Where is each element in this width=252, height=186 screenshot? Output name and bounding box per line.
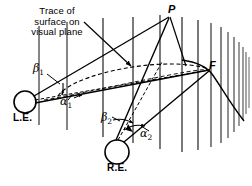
left-eye-label: L.E. <box>13 112 32 123</box>
right-eye-circle <box>105 140 129 164</box>
arrowhead-plane-hit <box>126 124 133 132</box>
angle-alpha2-subscript: 2 <box>147 133 152 142</box>
right-eye-rays <box>116 18 209 142</box>
leader-beta1 <box>47 74 60 84</box>
trace-note-text: Trace of surface on visual plane <box>18 6 96 38</box>
angle-beta2-label: β2 <box>101 112 112 127</box>
right-eye-label: R.E. <box>107 162 127 173</box>
arc-beta1 <box>62 83 63 95</box>
angle-beta1-subscript: 1 <box>39 68 44 77</box>
angle-alpha2-label: α2 <box>140 128 152 143</box>
figure-canvas: Trace of surface on visual plane L.E. R.… <box>0 0 252 186</box>
point-F-label: F <box>209 59 216 71</box>
segment-P-to-plane <box>170 17 186 66</box>
angle-beta1-label: β1 <box>33 63 44 78</box>
angle-beta2-subscript: 2 <box>107 117 112 126</box>
left-eye-circle <box>14 91 36 113</box>
point-P-label: P <box>168 3 175 15</box>
angle-alpha1-subscript: 1 <box>67 101 72 110</box>
angle-alpha1-label: α1 <box>60 96 72 111</box>
